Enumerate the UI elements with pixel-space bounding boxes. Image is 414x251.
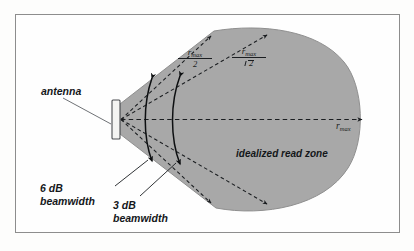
read-zone-diagram <box>0 0 414 251</box>
rmax-over-sqrt2-denominator: 2 <box>232 59 266 68</box>
rmax-over-2-numerator: rmax <box>178 48 212 57</box>
antenna-element <box>112 100 120 139</box>
rmax-over-2-denominator: 2 <box>178 60 212 69</box>
label-6db-beamwidth: 6 dB beamwidth <box>40 182 95 208</box>
label-rmax-axis: rmax <box>336 121 351 131</box>
label-antenna: antenna <box>41 85 81 98</box>
label-3db-beamwidth: 3 dB beamwidth <box>113 199 168 225</box>
label-rmax-over-sqrt2: rmax 2 <box>232 47 266 68</box>
antenna-leader-line <box>63 98 111 124</box>
leader-line-6db <box>115 160 148 186</box>
label-rmax-over-2: rmax 2 <box>178 48 212 69</box>
figure-root: antenna 6 dB beamwidth 3 dB beamwidth id… <box>0 0 414 251</box>
leader-line-3db <box>140 163 176 196</box>
label-3db-line2: beamwidth <box>113 212 168 224</box>
label-idealized-read-zone: idealized read zone <box>236 148 328 160</box>
label-6db-line2: beamwidth <box>40 195 95 207</box>
radical-sign: 2 <box>245 59 253 68</box>
rmax-over-sqrt2-numerator: rmax <box>232 47 266 56</box>
label-3db-line1: 3 dB <box>113 199 136 211</box>
label-6db-line1: 6 dB <box>40 182 63 194</box>
